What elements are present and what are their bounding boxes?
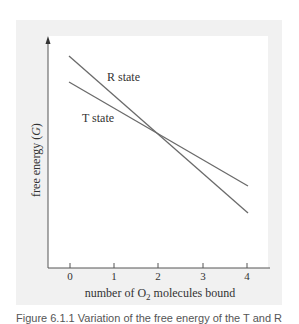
x-tick-label: 3 <box>200 270 206 282</box>
t-state-label: T state <box>82 111 114 126</box>
x-axis-label: number of O2 molecules bound <box>85 286 235 302</box>
t-state-line <box>69 82 248 186</box>
y-axis-arrow-icon <box>46 36 51 44</box>
y-axis-label: free energy (G) <box>29 123 44 197</box>
x-tick-label: 1 <box>111 270 117 282</box>
r-state-label: R state <box>107 70 140 85</box>
x-tick-label: 4 <box>244 270 250 282</box>
x-ticks <box>70 263 247 268</box>
figure-caption: Figure 6.1.1 Variation of the free energ… <box>16 312 282 324</box>
x-tick-label: 0 <box>67 270 73 282</box>
x-tick-label: 2 <box>155 270 161 282</box>
